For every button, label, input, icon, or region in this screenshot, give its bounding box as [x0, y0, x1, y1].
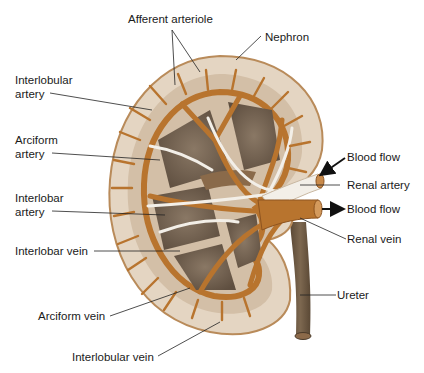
label-blood-flow-out: Blood flow — [347, 202, 400, 216]
label-renal-vein: Renal vein — [347, 232, 401, 246]
label-renal-artery: Renal artery — [347, 178, 410, 192]
label-interlobar-artery: Interlobar artery — [15, 191, 64, 219]
ureter-tube — [290, 222, 311, 340]
label-arciform-artery: Arciform artery — [15, 133, 58, 161]
label-interlobular-vein: Interlobular vein — [72, 350, 154, 364]
label-nephron: Nephron — [265, 30, 309, 44]
label-interlobular-artery: Interlobular artery — [15, 73, 73, 101]
label-afferent-arteriole: Afferent arteriole — [128, 12, 213, 26]
kidney-diagram: Afferent arteriole Nephron Interlobular … — [0, 0, 424, 373]
label-blood-flow-in: Blood flow — [347, 150, 400, 164]
label-arciform-vein: Arciform vein — [38, 309, 105, 323]
blood-flow-in-arrow — [322, 158, 345, 174]
label-ureter: Ureter — [337, 288, 369, 302]
label-interlobar-vein: Interlobar vein — [15, 244, 88, 258]
